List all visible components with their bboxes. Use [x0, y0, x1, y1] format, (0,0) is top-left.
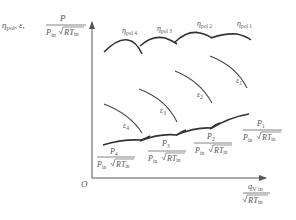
svg-text:P4: P4 [109, 147, 118, 157]
efficiency-curve-2 [175, 32, 212, 42]
svg-text:P2: P2 [206, 132, 215, 142]
svg-text:ε2: ε2 [197, 90, 203, 100]
origin-label: O [81, 179, 88, 189]
svg-text:ηpol,ε,: ηpol,ε, [2, 20, 25, 31]
svg-text:P: P [59, 13, 66, 23]
svg-text:qV in: qV in [248, 181, 263, 192]
power-label-1: P1 Pin RTin [242, 119, 282, 143]
pressure-ratio-curve-2 [175, 71, 212, 103]
efficiency-curves: ηpol 4 ηpol 3 ηpol 2 ηpol 1 [104, 19, 252, 54]
pressure-ratio-curve-3 [139, 89, 177, 122]
power-curve-1 [210, 114, 249, 129]
power-label-3: P3 Pin RTin [147, 139, 186, 164]
svg-text:RTin: RTin [63, 27, 79, 37]
efficiency-curve-4 [104, 40, 142, 54]
power-curve-2 [176, 123, 220, 135]
svg-text:ε4: ε4 [123, 121, 129, 131]
y-axis-label: ηpol,ε, P Pin RTin [2, 13, 86, 38]
svg-text:ηpol 4: ηpol 4 [122, 26, 137, 36]
svg-text:Pin: Pin [194, 146, 204, 156]
svg-text:ε3: ε3 [160, 106, 166, 116]
x-axis-label: qV in RTin [243, 181, 270, 205]
efficiency-curve-1 [211, 34, 251, 40]
svg-text:P1: P1 [256, 119, 265, 129]
svg-text:RTin: RTin [261, 133, 276, 142]
svg-text:RTin: RTin [166, 154, 181, 163]
svg-text:ηpol 2: ηpol 2 [197, 19, 212, 29]
svg-text:Pin: Pin [45, 27, 56, 38]
power-label-2: P2 Pin RTin [194, 132, 232, 156]
svg-text:P3: P3 [161, 139, 170, 149]
efficiency-curve-3 [140, 37, 177, 46]
svg-text:RTin: RTin [247, 195, 263, 205]
svg-text:RTin: RTin [115, 160, 130, 169]
compressor-characteristic-diagram: O ηpol,ε, P Pin RTin qV in RTin ηpol 4 [0, 0, 296, 220]
svg-text:ε1: ε1 [236, 76, 242, 86]
svg-text:Pin: Pin [96, 160, 106, 170]
svg-text:ηpol 3: ηpol 3 [157, 24, 172, 34]
svg-text:RTin: RTin [213, 146, 228, 155]
svg-text:Pin: Pin [147, 154, 157, 164]
svg-text:Pin: Pin [242, 133, 252, 143]
svg-text:ηpol 1: ηpol 1 [237, 19, 252, 29]
power-label-4: P4 Pin RTin [96, 147, 135, 170]
